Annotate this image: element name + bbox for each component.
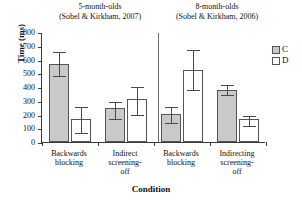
error-bar-cap-bottom	[131, 115, 144, 116]
y-tick-mark	[38, 102, 42, 103]
error-bar-cap-bottom	[187, 90, 200, 91]
panel-divider-line	[158, 33, 159, 143]
y-tick-mark	[38, 74, 42, 75]
error-bar-stem	[137, 87, 138, 115]
bar-chart-figure: 5-month-olds (Sobel & Kirkham, 2007) 8-m…	[0, 0, 302, 206]
x-category-label-line: blocking	[152, 158, 210, 167]
bar-c-4	[217, 90, 237, 142]
x-category-label-line: screening-	[208, 158, 266, 167]
y-tick-mark	[38, 47, 42, 48]
error-bar-cap-bottom	[75, 133, 88, 134]
x-tick-mark	[266, 142, 267, 146]
x-category-label-line: Indirect	[96, 149, 154, 158]
error-bar-d-2	[131, 87, 144, 115]
panel-title-line2: (Sobel & Kirkham, 2006)	[158, 12, 276, 22]
panel-title-line1: 8-month-olds	[195, 2, 238, 11]
plot-area: Time (ms) 8007006005004003002001000	[41, 33, 265, 143]
error-bar-cap-bottom	[165, 123, 178, 124]
legend-item-c: C	[272, 44, 289, 55]
error-bar-cap-top	[75, 107, 88, 108]
y-tick-mark	[38, 88, 42, 89]
error-bar-cap-top	[53, 52, 66, 53]
error-bar-c-1	[53, 52, 66, 77]
error-bar-c-2	[109, 102, 122, 121]
x-tick-mark	[98, 142, 99, 146]
x-category-label-line: screening-	[96, 158, 154, 167]
error-bar-stem	[193, 50, 194, 92]
legend-swatch-d	[272, 57, 280, 65]
x-category-label-line: Backwards	[40, 149, 98, 158]
panel-title-5-month-olds: 5-month-olds (Sobel & Kirkham, 2007)	[44, 2, 156, 22]
error-bar-d-1	[75, 107, 88, 135]
x-category-label-1: Backwardsblocking	[40, 149, 98, 167]
error-bar-c-3	[165, 107, 178, 124]
y-tick-mark	[38, 129, 42, 130]
error-bar-c-4	[221, 85, 234, 96]
legend-item-d: D	[272, 55, 289, 66]
x-tick-mark	[42, 142, 43, 146]
error-bar-cap-bottom	[109, 119, 122, 120]
error-bar-cap-top	[165, 107, 178, 108]
x-axis-title: Condition	[0, 184, 302, 194]
error-bar-stem	[59, 52, 60, 77]
y-tick-mark	[38, 33, 42, 34]
y-tick-label: 600	[9, 57, 35, 65]
x-category-label-line: off	[208, 167, 266, 176]
y-tick-label: 0	[9, 139, 35, 147]
error-bar-stem	[115, 102, 116, 121]
error-bar-d-4	[243, 116, 256, 128]
x-category-label-line: off	[96, 167, 154, 176]
y-tick-mark	[38, 61, 42, 62]
error-bar-cap-top	[109, 102, 122, 103]
x-category-label-4: Indirectingscreening-off	[208, 149, 266, 176]
panel-title-line1: 5-month-olds	[78, 2, 121, 11]
error-bar-cap-top	[243, 116, 256, 117]
x-category-label-line: blocking	[40, 158, 98, 167]
error-bar-stem	[171, 107, 172, 124]
error-bar-cap-bottom	[243, 126, 256, 127]
legend-swatch-c	[272, 46, 280, 54]
x-tick-mark	[154, 142, 155, 146]
y-tick-label: 500	[9, 70, 35, 78]
error-bar-d-3	[187, 50, 200, 92]
error-bar-cap-bottom	[53, 76, 66, 77]
error-bar-cap-bottom	[221, 95, 234, 96]
y-tick-label: 800	[9, 29, 35, 37]
x-category-label-3: Backwardsblocking	[152, 149, 210, 167]
error-bar-stem	[81, 107, 82, 135]
y-tick-label: 400	[9, 84, 35, 92]
panel-title-line2: (Sobel & Kirkham, 2007)	[44, 12, 156, 22]
x-category-label-line: Indirecting	[208, 149, 266, 158]
y-tick-label: 300	[9, 98, 35, 106]
x-category-label-2: Indirectscreening-off	[96, 149, 154, 176]
legend-label: C	[282, 45, 288, 54]
error-bar-cap-top	[131, 87, 144, 88]
error-bar-cap-top	[187, 50, 200, 51]
y-tick-mark	[38, 116, 42, 117]
legend: CD	[272, 44, 289, 66]
y-tick-label: 700	[9, 43, 35, 51]
error-bar-cap-top	[221, 85, 234, 86]
panel-title-8-month-olds: 8-month-olds (Sobel & Kirkham, 2006)	[158, 2, 276, 22]
x-category-label-line: Backwards	[152, 149, 210, 158]
y-tick-label: 200	[9, 112, 35, 120]
x-tick-mark	[210, 142, 211, 146]
y-tick-label: 100	[9, 125, 35, 133]
legend-label: D	[282, 56, 289, 65]
